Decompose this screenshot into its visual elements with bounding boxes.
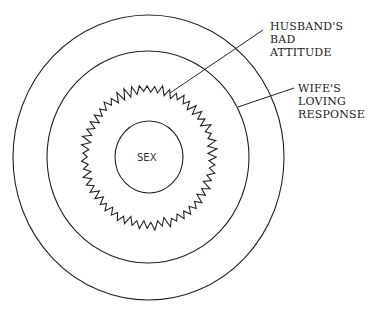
label-line: HUSBAND'S BAD (270, 20, 370, 46)
label-line: ATTITUDE (270, 46, 370, 59)
label-line: LOVING (298, 95, 365, 108)
label-line: RESPONSE (298, 108, 365, 121)
label-wifes-loving-response: WIFE'S LOVING RESPONSE (298, 82, 365, 121)
label-husbands-bad-attitude: HUSBAND'S BAD ATTITUDE (270, 20, 370, 59)
label-line: WIFE'S (298, 82, 365, 95)
center-label-sex: SEX (137, 152, 157, 163)
leader-line-wife (238, 88, 294, 107)
